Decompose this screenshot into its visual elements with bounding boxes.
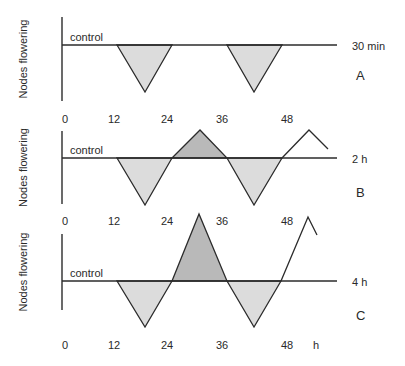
- x-unit-label: h: [313, 339, 319, 351]
- trend-line: [282, 130, 328, 158]
- dip-area: [117, 45, 172, 92]
- y-axis-label: Nodes flowering: [17, 20, 29, 99]
- control-label: control: [70, 31, 103, 43]
- dip-area: [227, 158, 282, 205]
- x-tick-label: 24: [161, 339, 173, 351]
- panel-a: controlNodes flowering30 minA012243648: [17, 17, 385, 125]
- dip-area: [117, 281, 172, 327]
- condition-label: 30 min: [352, 40, 385, 52]
- x-tick-label: 12: [108, 215, 120, 227]
- x-tick-label: 12: [108, 113, 120, 125]
- x-tick-label: 48: [281, 215, 293, 227]
- panel-c: controlNodes flowering4 hC012243648h: [17, 214, 367, 351]
- flowering-figure: controlNodes flowering30 minA012243648co…: [0, 0, 405, 366]
- x-tick-label: 48: [281, 339, 293, 351]
- y-axis-label: Nodes flowering: [17, 128, 29, 207]
- y-axis-label: Nodes flowering: [17, 233, 29, 312]
- control-label: control: [70, 144, 103, 156]
- panel-letter: C: [356, 308, 365, 323]
- panel-letter: A: [356, 68, 365, 83]
- x-tick-label: 24: [161, 113, 173, 125]
- condition-label: 2 h: [352, 153, 367, 165]
- dip-area: [227, 281, 281, 327]
- x-tick-label: 48: [281, 113, 293, 125]
- x-tick-label: 36: [216, 113, 228, 125]
- panel-letter: B: [356, 185, 365, 200]
- x-tick-label: 36: [216, 215, 228, 227]
- dip-area: [227, 45, 282, 92]
- x-tick-label: 0: [62, 339, 68, 351]
- x-tick-label: 12: [108, 339, 120, 351]
- x-tick-label: 24: [161, 215, 173, 227]
- dip-area: [117, 158, 172, 205]
- x-tick-label: 0: [62, 215, 68, 227]
- condition-label: 4 h: [352, 276, 367, 288]
- panel-b: controlNodes flowering2 hB012243648: [17, 128, 367, 227]
- x-tick-label: 36: [216, 339, 228, 351]
- control-label: control: [70, 267, 103, 279]
- peak-area: [172, 130, 227, 158]
- x-tick-label: 0: [62, 113, 68, 125]
